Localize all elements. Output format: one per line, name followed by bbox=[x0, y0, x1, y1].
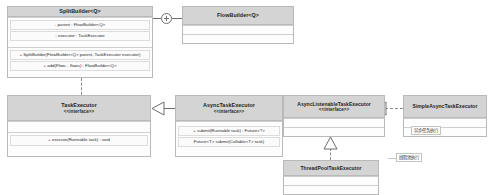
method-row: + execute(Runnable task) : void bbox=[10, 135, 148, 145]
attributes-compartment-thread-pool-task-executor bbox=[284, 176, 378, 185]
class-async-listenable-task-executor[interactable]: AsyncListenableTaskExecutor <<interface>… bbox=[283, 95, 385, 137]
class-title: TaskExecutor bbox=[61, 102, 97, 109]
class-async-task-executor[interactable]: AsyncTaskExecutor <<interface>> + submit… bbox=[175, 95, 283, 157]
class-header-task-executor: TaskExecutor <<interface>> bbox=[8, 96, 150, 121]
class-split-builder[interactable]: SplitBuilder<Q> - parent : FlowBuilder<Q… bbox=[7, 6, 153, 78]
note-thread-pool: 线程池执行 bbox=[396, 153, 422, 162]
attributes-compartment-split-builder: - parent : FlowBuilder<Q> - executor : T… bbox=[8, 17, 152, 47]
class-header-simple-async-task-executor: SimpleAsyncTaskExecutor bbox=[404, 96, 486, 118]
class-stereotype: <<interface>> bbox=[319, 107, 350, 113]
class-stereotype: <<interface>> bbox=[214, 109, 245, 115]
attributes-compartment-flow-builder bbox=[183, 25, 293, 34]
class-title: AsyncTaskExecutor bbox=[203, 102, 255, 109]
method-row: Future<T> submit(Callable<T> task) bbox=[178, 137, 280, 147]
class-task-executor[interactable]: TaskExecutor <<interface>> + execute(Run… bbox=[7, 95, 151, 157]
connector-split-to-taskexecutor bbox=[81, 78, 82, 95]
methods-compartment-task-executor: + execute(Runnable task) : void bbox=[8, 132, 150, 156]
note-simple-async: 异步任务执行 bbox=[411, 126, 441, 135]
attributes-compartment-task-executor bbox=[8, 121, 150, 132]
class-header-thread-pool-task-executor: ThreadPoolTaskExecutor bbox=[284, 161, 378, 176]
methods-compartment-thread-pool-task-executor bbox=[284, 185, 378, 194]
class-title: ThreadPoolTaskExecutor bbox=[300, 165, 361, 171]
connector-simple-to-listenable bbox=[385, 108, 403, 109]
class-flow-builder[interactable]: FlowBuilder<Q> bbox=[182, 6, 294, 44]
class-header-async-task-executor: AsyncTaskExecutor <<interface>> bbox=[176, 96, 282, 121]
method-row: + SplitBuilder(FlowBuilder<Q> parent, Ta… bbox=[10, 50, 150, 60]
method-row: + add(Flow... flows) : FlowBuilder<Q> bbox=[10, 61, 150, 71]
attribute-row: - executor : TaskExecutor bbox=[10, 31, 150, 41]
methods-compartment-split-builder: + SplitBuilder(FlowBuilder<Q> parent, Ta… bbox=[8, 47, 152, 77]
generalization-arrow-taskexecutor bbox=[151, 101, 165, 116]
methods-compartment-flow-builder bbox=[183, 34, 293, 43]
attribute-row: - parent : FlowBuilder<Q> bbox=[10, 20, 150, 30]
class-thread-pool-task-executor[interactable]: ThreadPoolTaskExecutor bbox=[283, 160, 379, 195]
connector-junction-to-flow bbox=[172, 18, 182, 19]
method-row: + submit(Runnable task) : Future<?> bbox=[178, 126, 280, 136]
uml-class-diagram: SplitBuilder<Q> - parent : FlowBuilder<Q… bbox=[0, 0, 491, 195]
methods-compartment-async-task-executor: + submit(Runnable task) : Future<?> Futu… bbox=[176, 121, 282, 156]
class-header-split-builder: SplitBuilder<Q> bbox=[8, 7, 152, 17]
class-title: SplitBuilder<Q> bbox=[59, 8, 101, 15]
class-stereotype: <<interface>> bbox=[64, 109, 95, 115]
methods-compartment-async-listenable-task-executor bbox=[284, 127, 384, 136]
class-title: SimpleAsyncTaskExecutor bbox=[413, 103, 478, 109]
attributes-compartment-async-listenable-task-executor bbox=[284, 118, 384, 127]
realization-arrow-listenable-bottom bbox=[323, 136, 338, 150]
class-header-flow-builder: FlowBuilder<Q> bbox=[183, 7, 293, 25]
connector-split-to-junction bbox=[152, 18, 161, 19]
class-title: FlowBuilder<Q> bbox=[217, 12, 259, 19]
connector-note-threadpool bbox=[388, 158, 396, 159]
plus-junction-icon bbox=[161, 13, 172, 24]
class-header-async-listenable-task-executor: AsyncListenableTaskExecutor <<interface>… bbox=[284, 96, 384, 118]
